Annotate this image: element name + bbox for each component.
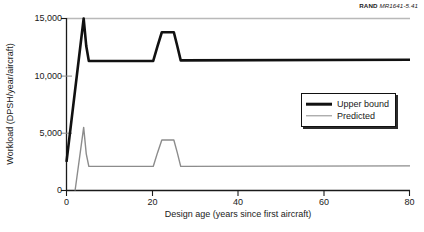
- x-tick-label-40: 40: [224, 198, 253, 207]
- series-line-predicted: [75, 127, 410, 190]
- x-tick-label-60: 60: [310, 198, 339, 207]
- x-axis-title: Design age (years since first aircraft): [66, 210, 410, 219]
- x-tick-label-80: 80: [395, 198, 424, 207]
- x-tick-label-0: 0: [52, 198, 81, 207]
- line-swatch-icon-predicted: [306, 112, 332, 121]
- line-swatch-icon-upper-bound: [306, 100, 332, 109]
- y-tick-label-15000: 15,000: [18, 14, 62, 23]
- legend-item-predicted: Predicted: [306, 110, 389, 122]
- chart-legend: Upper bound Predicted: [301, 93, 396, 127]
- x-tick-label-20: 20: [138, 198, 167, 207]
- y-tick-label-5000: 5,000: [18, 129, 62, 138]
- y-tick-label-0: 0: [18, 186, 62, 195]
- legend-label-predicted: Predicted: [337, 112, 375, 121]
- legend-label-upper-bound: Upper bound: [337, 100, 389, 109]
- legend-item-upper-bound: Upper bound: [306, 98, 389, 110]
- figure-container: RAND MR1641-5.41 15,000 10,000: [0, 0, 424, 232]
- y-axis-title: Workload (DPSH/year/aircraft): [3, 18, 17, 190]
- y-tick-label-10000: 10,000: [18, 72, 62, 81]
- series-line-upper-bound: [67, 19, 411, 162]
